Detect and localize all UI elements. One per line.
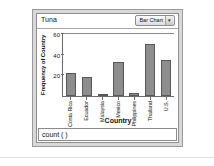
bar[interactable] — [161, 60, 171, 96]
chart-header-bar: Tuna Bar Chart ▾ — [37, 14, 178, 29]
bar-slot — [79, 33, 95, 96]
bar-slot — [142, 33, 158, 96]
bar-slot — [95, 33, 111, 96]
formula-input[interactable]: count ( ) — [38, 128, 177, 141]
x-axis-tick-label: U.S. — [163, 101, 169, 111]
bar-slot — [111, 33, 127, 96]
plot-region[interactable]: Frequency of Country 204060 Costa RicaEc… — [37, 29, 178, 124]
y-axis-tick-labels: 204060 — [48, 31, 61, 99]
formula-text: count ( ) — [42, 131, 68, 138]
chart-type-dropdown[interactable]: Bar Chart ▾ — [135, 15, 175, 26]
bar-series — [63, 33, 174, 96]
bar[interactable] — [82, 77, 92, 96]
x-axis-tick-mark — [86, 97, 87, 100]
page-divider — [0, 157, 214, 158]
fathom-chart-window[interactable]: Tuna Bar Chart ▾ Frequency of Country 20… — [32, 9, 183, 147]
chart-axes — [62, 33, 174, 97]
y-axis-title: Frequency of Country — [38, 33, 48, 97]
bar[interactable] — [129, 93, 139, 96]
x-axis-tick-mark — [166, 97, 167, 100]
y-axis-tick-label: 40 — [53, 53, 60, 59]
bar-slot — [63, 33, 79, 96]
bar[interactable] — [113, 62, 123, 96]
y-axis-title-text: Frequency of Country — [40, 35, 46, 95]
bar-slot — [126, 33, 142, 96]
y-axis-tick-label: 20 — [53, 73, 60, 79]
collection-title: Tuna — [41, 16, 57, 23]
bar[interactable] — [66, 73, 76, 96]
x-axis-title: Country — [62, 117, 174, 124]
bar-slot — [158, 33, 174, 96]
x-axis-tick-mark — [118, 97, 119, 100]
y-axis-tick-label: 60 — [53, 32, 60, 38]
y-axis-tick-mark — [61, 74, 64, 75]
chevron-down-icon[interactable]: ▾ — [165, 16, 173, 25]
y-axis-tick-mark — [61, 33, 64, 34]
window-inner-panel: Tuna Bar Chart ▾ Frequency of Country 20… — [36, 13, 179, 143]
x-axis-tick-mark — [70, 97, 71, 100]
x-axis-tick-label: Mexico — [115, 101, 121, 118]
x-axis-tick-mark — [150, 97, 151, 100]
chart-type-label: Bar Chart — [139, 16, 163, 25]
x-axis-tick-mark — [102, 97, 103, 100]
y-axis-tick-mark — [61, 54, 64, 55]
bar[interactable] — [98, 94, 108, 96]
bar[interactable] — [145, 44, 155, 96]
